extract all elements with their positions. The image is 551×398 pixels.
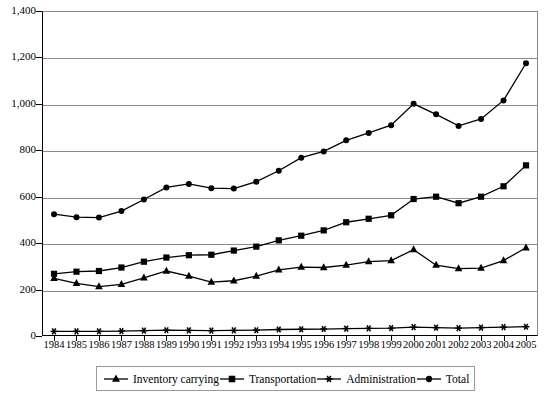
x-axis-tick-mark [166, 336, 167, 341]
y-axis-tick-mark [36, 290, 42, 291]
legend-item[interactable]: Inventory carrying [103, 373, 219, 385]
legend-swatch-circle-icon [416, 373, 442, 385]
x-axis-tick-mark [279, 336, 280, 341]
y-axis-tick-mark [36, 336, 42, 337]
x-axis-tick-mark [504, 336, 505, 341]
legend-item[interactable]: Administration [316, 373, 416, 385]
x-axis-tick-mark [99, 336, 100, 341]
legend-item-label: Total [446, 373, 469, 385]
x-axis-tick-mark [481, 336, 482, 341]
gridline [43, 58, 537, 59]
square-marker [229, 375, 236, 382]
x-axis-tick-mark [234, 336, 235, 341]
chart-container: 02004006008001,0001,2001,400 19841985198… [0, 0, 551, 398]
legend-item-label: Administration [346, 373, 416, 385]
x-axis-tick-mark [391, 336, 392, 341]
triangle-marker [112, 374, 120, 381]
y-axis-tick-label: 1,200 [0, 51, 36, 62]
x-axis-tick-mark [436, 336, 437, 341]
y-axis-tick-mark [36, 150, 42, 151]
y-axis-tick-label: 0 [0, 330, 36, 341]
circle-marker [426, 375, 432, 381]
gridline [43, 198, 537, 199]
gridline [43, 151, 537, 152]
x-axis-tick-mark [54, 336, 55, 341]
plot-area [42, 11, 538, 336]
x-axis-tick-mark [324, 336, 325, 341]
y-axis-tick-label: 200 [0, 284, 36, 295]
chart-legend: Inventory carryingTransportationAdminist… [96, 366, 475, 391]
gridline [43, 291, 537, 292]
x-axis-tick-mark [459, 336, 460, 341]
x-axis-tick-mark [256, 336, 257, 341]
legend-item[interactable]: Transportation [219, 373, 316, 385]
asterisk-marker [326, 375, 333, 381]
y-axis: 02004006008001,0001,2001,400 [0, 0, 36, 398]
legend-item[interactable]: Total [416, 373, 469, 385]
x-axis-tick-mark [189, 336, 190, 341]
y-axis-tick-mark [36, 57, 42, 58]
x-axis: 1984198519861987198819891990199119921993… [42, 339, 538, 357]
y-axis-tick-mark [36, 197, 42, 198]
x-axis-tick-mark [414, 336, 415, 341]
y-axis-tick-label: 600 [0, 191, 36, 202]
y-axis-tick-label: 400 [0, 237, 36, 248]
y-axis-tick-mark [36, 104, 42, 105]
x-axis-tick-mark [121, 336, 122, 341]
x-axis-tick-mark [526, 336, 527, 341]
x-axis-tick-mark [76, 336, 77, 341]
legend-swatch-square-icon [219, 373, 245, 385]
legend-swatch-asterisk-icon [316, 373, 342, 385]
legend-item-label: Inventory carrying [133, 373, 219, 385]
y-axis-tick-label: 800 [0, 144, 36, 155]
legend-swatch-triangle-icon [103, 373, 129, 385]
x-axis-tick-mark [211, 336, 212, 341]
x-axis-tick-mark [301, 336, 302, 341]
x-axis-tick-mark [346, 336, 347, 341]
y-axis-tick-mark [36, 11, 42, 12]
y-axis-tick-mark [36, 243, 42, 244]
gridline [43, 105, 537, 106]
y-axis-tick-label: 1,000 [0, 98, 36, 109]
x-axis-tick-mark [369, 336, 370, 341]
legend-item-label: Transportation [249, 373, 316, 385]
x-axis-tick-mark [144, 336, 145, 341]
y-axis-tick-label: 1,400 [0, 5, 36, 16]
gridline [43, 244, 537, 245]
